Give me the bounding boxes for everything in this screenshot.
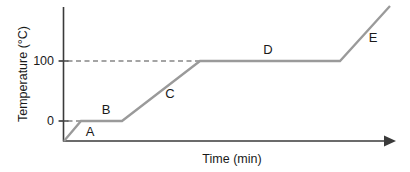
x-axis-title: Time (min) — [202, 152, 261, 166]
segment-label-c: C — [165, 86, 174, 101]
heating-curve-figure: 100 0 A B C D E Time (min) Temperature (… — [0, 0, 410, 172]
y-tick-label-100: 100 — [33, 54, 54, 68]
x-axis-arrow-icon — [384, 136, 396, 147]
segment-label-e: E — [369, 30, 378, 45]
temperature-vs-time-chart: 100 0 A B C D E Time (min) Temperature (… — [0, 0, 410, 172]
heating-curve-polyline — [64, 6, 390, 141]
segment-label-d: D — [263, 42, 272, 57]
segment-label-b: B — [102, 102, 111, 117]
segment-label-a: A — [86, 124, 95, 139]
y-axis-title: Temperature (°C) — [16, 26, 30, 122]
y-tick-label-0: 0 — [47, 114, 54, 128]
